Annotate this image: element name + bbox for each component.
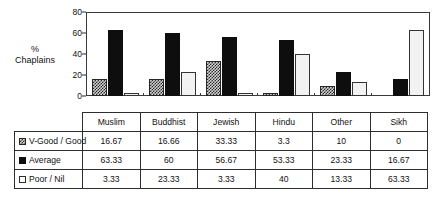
- bar-buddhist-series-0: [149, 79, 164, 96]
- bar-groups: [87, 13, 429, 96]
- table-cell-buddhist-series-1: 60: [140, 151, 198, 170]
- bar-hindu-series-1: [279, 40, 294, 96]
- bar-group-hindu: [258, 13, 315, 96]
- bar-buddhist-series-1: [165, 33, 180, 96]
- table-corner-cell: [15, 113, 83, 132]
- y-axis-tick-label-40: 40: [66, 50, 82, 59]
- solid-black-swatch: [19, 157, 26, 164]
- chart-figure: % Chaplains 020406080 MuslimBuddhistJewi…: [0, 0, 442, 207]
- table-cell-jewish-series-1: 56.67: [198, 151, 256, 170]
- plot-area: 020406080: [66, 12, 430, 108]
- checkered-pattern-swatch: [19, 138, 26, 145]
- bar-hindu-series-2: [295, 54, 310, 96]
- bar-sikh-series-1: [393, 79, 408, 97]
- table-cell-jewish-series-2: 3.33: [198, 170, 256, 189]
- bar-jewish-series-0: [206, 61, 221, 96]
- table-cell-sikh-series-0: 0: [370, 132, 428, 151]
- table-cell-other-series-2: 13.33: [313, 170, 371, 189]
- y-axis-tick-label-0: 0: [66, 92, 82, 101]
- table-col-header-sikh: Sikh: [370, 113, 428, 132]
- table-col-header-jewish: Jewish: [198, 113, 256, 132]
- y-axis-title: % Chaplains: [6, 44, 64, 66]
- y-axis-tick-label-20: 20: [66, 71, 82, 80]
- legend-item-1: Average: [15, 151, 83, 170]
- table-cell-other-series-1: 23.33: [313, 151, 371, 170]
- legend-label-0: V-Good / Good: [29, 136, 86, 146]
- table-header-row: MuslimBuddhistJewishHinduOtherSikh: [15, 113, 428, 132]
- legend-item-2: Poor / Nil: [15, 170, 83, 189]
- bar-group-sikh: [372, 13, 429, 96]
- bar-muslim-series-0: [92, 79, 107, 97]
- bar-other-series-2: [352, 82, 367, 96]
- y-axis-tick-label-60: 60: [66, 29, 82, 38]
- y-axis-title-line-2: Chaplains: [6, 55, 64, 66]
- table-row: Poor / Nil3.3323.333.334013.3363.33: [15, 170, 428, 189]
- table-cell-muslim-series-0: 16.67: [83, 132, 141, 151]
- table-body: V-Good / Good16.6716.6633.333.3100Averag…: [15, 132, 428, 189]
- legend-label-1: Average: [29, 155, 61, 165]
- bar-group-buddhist: [144, 13, 201, 96]
- bar-muslim-series-1: [108, 30, 123, 96]
- table-row: Average63.336056.6753.3323.3316.67: [15, 151, 428, 170]
- table-cell-buddhist-series-2: 23.33: [140, 170, 198, 189]
- table-col-header-muslim: Muslim: [83, 113, 141, 132]
- table-row: V-Good / Good16.6716.6633.333.3100: [15, 132, 428, 151]
- y-axis-tick-label-80: 80: [66, 8, 82, 17]
- legend-label-2: Poor / Nil: [29, 174, 64, 184]
- bar-hindu-series-0: [263, 93, 278, 96]
- table-col-header-buddhist: Buddhist: [140, 113, 198, 132]
- table-cell-sikh-series-2: 63.33: [370, 170, 428, 189]
- table-col-header-other: Other: [313, 113, 371, 132]
- bar-group-jewish: [201, 13, 258, 96]
- white-outline-swatch: [19, 176, 26, 183]
- bar-jewish-series-2: [238, 93, 253, 96]
- table-cell-muslim-series-1: 63.33: [83, 151, 141, 170]
- table-cell-hindu-series-1: 53.33: [255, 151, 313, 170]
- bar-jewish-series-1: [222, 37, 237, 97]
- table-cell-sikh-series-1: 16.67: [370, 151, 428, 170]
- y-axis-ticks: 020406080: [66, 12, 82, 96]
- data-table: MuslimBuddhistJewishHinduOtherSikh V-Goo…: [14, 112, 428, 189]
- bar-group-muslim: [87, 13, 144, 96]
- bar-buddhist-series-2: [181, 72, 196, 96]
- y-axis-title-line-1: %: [6, 44, 64, 55]
- bar-other-series-0: [320, 86, 335, 97]
- table-cell-other-series-0: 10: [313, 132, 371, 151]
- table-cell-muslim-series-2: 3.33: [83, 170, 141, 189]
- table-cell-hindu-series-0: 3.3: [255, 132, 313, 151]
- bar-other-series-1: [336, 72, 351, 96]
- table-col-header-hindu: Hindu: [255, 113, 313, 132]
- table-cell-hindu-series-2: 40: [255, 170, 313, 189]
- legend-item-0: V-Good / Good: [15, 132, 83, 151]
- table-cell-jewish-series-0: 33.33: [198, 132, 256, 151]
- bar-sikh-series-2: [409, 30, 424, 96]
- bar-group-other: [315, 13, 372, 96]
- bar-muslim-series-2: [124, 93, 139, 96]
- table-cell-buddhist-series-0: 16.66: [140, 132, 198, 151]
